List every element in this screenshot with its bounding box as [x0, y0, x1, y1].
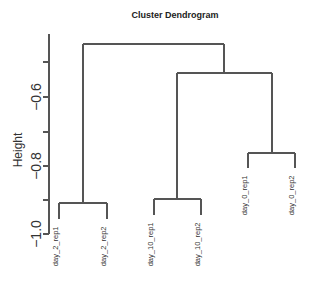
leaf-label: day_2_rep1: [51, 227, 60, 267]
branch-day10-day0: [177, 73, 272, 199]
dendrogram-plot: [0, 0, 310, 285]
branch-day10: [154, 199, 201, 215]
dendrogram-chart: Cluster Dendrogram Height −0.6 −0.8 −1.0: [0, 0, 310, 285]
branch-root: [83, 44, 224, 203]
leaf-label: day_2_rep2: [99, 227, 108, 267]
leaf-label: day_0_rep2: [287, 176, 296, 216]
y-axis: [43, 34, 49, 234]
branch-day0: [248, 153, 295, 168]
leaf-label: day_10_rep1: [146, 223, 155, 267]
branch-day2: [59, 203, 107, 219]
leaf-label: day_10_rep2: [193, 223, 202, 267]
leaf-label: day_0_rep1: [240, 176, 249, 216]
